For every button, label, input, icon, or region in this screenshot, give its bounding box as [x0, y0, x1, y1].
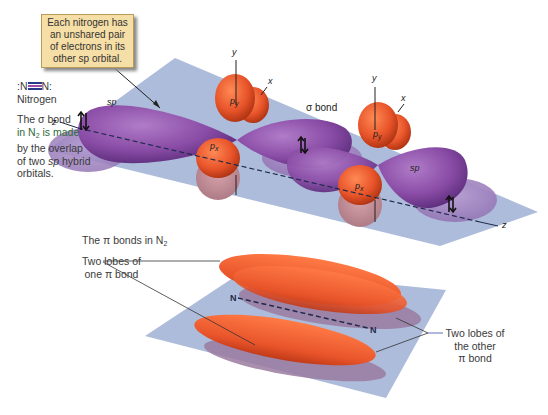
z-axis-label-left: z	[52, 117, 57, 127]
x-axis-label-left: x	[268, 76, 273, 86]
px-label-left: px	[210, 141, 219, 152]
pi-bonds-title: The π bonds in N2	[82, 234, 167, 251]
n2-formula: :NN:	[17, 80, 52, 93]
right-py-lobe	[358, 102, 398, 148]
px-label-right: px	[355, 181, 364, 192]
z-axis-label-right: z	[502, 220, 507, 230]
sp-label-left: sp	[107, 97, 117, 107]
py-label-left: py	[230, 96, 239, 107]
unshared-pair-callout: Each nitrogen has an unshared pair of el…	[41, 14, 134, 68]
py-label-right: py	[373, 129, 382, 140]
sigma-bond-label: σ bond	[306, 102, 337, 115]
triple-bond-icon	[28, 82, 42, 89]
pi-right-label: Two lobes of the other π bond	[444, 327, 506, 365]
pi-left-label: Two lobes of one π bond	[82, 255, 141, 280]
y-axis-label-left: y	[232, 47, 237, 57]
y-axis-label-right: y	[372, 73, 377, 83]
pi-atom-right: N	[370, 325, 377, 335]
pi-atom-left: N	[230, 293, 237, 303]
formula-name: Nitrogen	[17, 93, 57, 106]
x-axis-label-right: x	[401, 93, 406, 103]
sp-label-right: sp	[410, 163, 420, 173]
